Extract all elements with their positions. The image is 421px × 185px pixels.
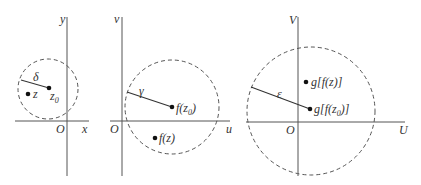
epsilon-label: ε — [277, 87, 282, 101]
x-axis-label: x — [81, 122, 88, 136]
z-label: z — [32, 87, 38, 101]
U-axis-label: U — [399, 123, 409, 137]
g-f-z0-label: g[f(z0)] — [314, 102, 350, 118]
panel-W-plane: ε g[f(z0)] g[f(z)] V O U — [246, 13, 409, 176]
origin-label: O — [110, 122, 119, 136]
origin-label: O — [56, 122, 65, 136]
f-z-label: f(z) — [159, 131, 175, 145]
z0-label: z0 — [49, 89, 59, 105]
panel-w-plane: γ f(z0) f(z) v O u — [110, 12, 232, 176]
f-z0-label: f(z0) — [176, 101, 196, 117]
f-z0-point — [170, 105, 175, 110]
delta-label: δ — [33, 70, 39, 84]
u-axis-label: u — [226, 122, 232, 136]
g-f-z-point — [304, 80, 309, 85]
panel-z-plane: δ z z0 y O x — [15, 12, 89, 176]
z-point — [26, 92, 31, 97]
gamma-label: γ — [139, 84, 144, 98]
f-z-point — [153, 136, 158, 141]
g-f-z-label: g[f(z)] — [311, 75, 343, 89]
gamma-radius-line — [127, 92, 172, 107]
y-axis-label: y — [59, 12, 66, 26]
v-axis-label: v — [114, 12, 120, 26]
origin-label: O — [286, 123, 295, 137]
V-axis-label: V — [289, 13, 298, 27]
g-f-z0-point — [308, 107, 313, 112]
composition-continuity-diagram: δ z z0 y O x γ f(z0) f(z) v O u ε g[f(z0… — [0, 0, 421, 185]
